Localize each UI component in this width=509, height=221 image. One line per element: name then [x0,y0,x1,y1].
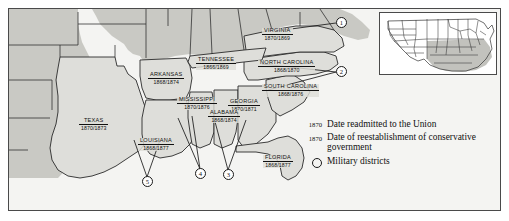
state-label-louisiana: LOUISIANA 1868/1877 [138,138,174,151]
map-legend: 1870 Date readmitted to the Union 1870 D… [298,120,496,172]
military-district-marker-3[interactable]: 3 [223,169,234,180]
state-dates-north-carolina: 1868/1870 [258,67,315,73]
military-district-marker-1[interactable]: 1 [336,17,347,28]
military-district-label-5: 5 [146,178,149,185]
state-dates-virginia: 1870/1869 [262,35,293,41]
state-label-north-carolina: NORTH CAROLINA 1868/1870 [258,60,315,73]
legend-text-readmitted: Date readmitted to the Union [327,120,436,130]
legend-item-readmitted: 1870 Date readmitted to the Union [298,120,496,130]
state-dates-south-carolina: 1868/1876 [262,91,319,97]
inset-usa-svg [380,13,497,75]
legend-text-conservative: Date of reestablishment of conservative … [327,133,496,153]
state-dates-texas: 1870/1873 [79,125,108,131]
legend-text-military-districts: Military districts [327,157,390,167]
legend-key-conservative: 1870 [298,133,327,141]
legend-circle-icon [298,157,327,169]
legend-item-conservative: 1870 Date of reestablishment of conserva… [298,133,496,153]
state-label-texas: TEXAS 1870/1873 [79,118,108,131]
military-district-label-2: 2 [340,68,343,75]
military-district-label-1: 1 [340,19,343,26]
state-dates-louisiana: 1868/1877 [138,145,174,151]
military-district-marker-5[interactable]: 5 [142,176,153,187]
state-label-virginia: VIRGINIA 1870/1869 [262,28,293,41]
state-label-florida: FLORIDA 1868/1877 [263,155,293,168]
state-label-arkansas: ARKANSAS 1868/1874 [148,72,184,85]
state-label-alabama: ALABAMA 1868/1874 [208,110,240,123]
military-district-marker-2[interactable]: 2 [336,66,347,77]
state-dates-tennessee: 1866/1869 [196,64,236,70]
military-district-label-3: 3 [227,171,230,178]
state-dates-florida: 1868/1877 [263,162,293,168]
state-label-tennessee: TENNESSEE 1866/1869 [196,57,236,70]
reconstruction-map-figure: VIRGINIA 1870/1869 TENNESSEE 1866/1869 N… [0,0,509,221]
legend-item-military-districts: Military districts [298,157,496,169]
state-dates-arkansas: 1868/1874 [148,79,184,85]
inset-locator-map [379,12,497,75]
legend-key-readmitted: 1870 [298,120,327,128]
state-dates-alabama: 1868/1874 [208,117,240,123]
military-district-marker-4[interactable]: 4 [195,168,206,179]
military-district-label-4: 4 [199,170,202,177]
state-label-south-carolina: SOUTH CAROLINA 1868/1876 [262,84,319,97]
